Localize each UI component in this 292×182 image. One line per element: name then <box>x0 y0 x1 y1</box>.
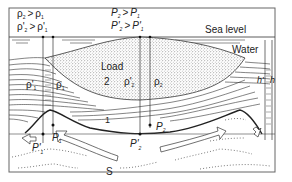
rho-prime-symbol: ρ' <box>17 21 25 32</box>
subscript: 1 <box>141 26 144 32</box>
substrate-label: S <box>106 166 113 177</box>
load-number-label: 2 <box>104 76 110 87</box>
svg-text:P2>P1: P2>P1 <box>111 7 140 19</box>
operator: > <box>122 7 128 18</box>
subscript: 2 <box>117 13 121 19</box>
svg-text:ρ2>ρ1: ρ2>ρ1 <box>17 8 44 20</box>
subscript: 1 <box>137 13 140 19</box>
svg-text:P'2>P'1: P'2>P'1 <box>111 20 144 32</box>
svg-text:ρ'2>ρ'1: ρ'2>ρ'1 <box>17 21 48 33</box>
subscript: 2 <box>23 14 26 20</box>
subscript: 1 <box>41 14 44 20</box>
water-label: Water <box>232 44 259 55</box>
subscript: 2 <box>25 27 28 33</box>
cross-section-diagram: ρ2>ρ1 ρ'2>ρ'1 P2>P1 P'2>P'1 Sea level Wa… <box>0 0 292 182</box>
operator: > <box>27 8 33 19</box>
layer-number-label: 1 <box>105 115 110 125</box>
operator: > <box>29 21 35 32</box>
rho-prime-symbol: ρ' <box>37 21 45 32</box>
h-label: h <box>270 75 275 85</box>
subscript: 2 <box>119 26 123 32</box>
sea-level-label: Sea level <box>205 24 246 35</box>
operator: > <box>124 20 130 31</box>
h-prime-label: h' <box>257 75 264 85</box>
load-label: Load <box>101 61 123 72</box>
subscript: 1 <box>45 27 48 33</box>
